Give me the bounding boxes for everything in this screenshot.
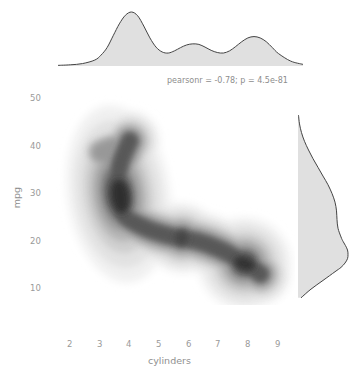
x-tick-label-3: 3 (97, 339, 102, 349)
x-tick-label-7: 7 (215, 339, 220, 349)
joint-kde-panel (40, 90, 295, 305)
marginal-x-kde-plot (55, 8, 303, 68)
pearson-annotation: pearsonr = -0.78; p = 4.5e-81 (167, 76, 288, 85)
y-tick-label-10: 10 (30, 283, 41, 293)
marginal-x-kde-panel (55, 8, 303, 68)
x-tick-label-8: 8 (245, 339, 250, 349)
x-tick-label-2: 2 (67, 339, 72, 349)
x-axis-title: cylinders (148, 355, 191, 366)
marginal-y-kde-panel (296, 100, 354, 300)
joint-kde-plot (40, 90, 295, 305)
x-tick-label-6: 6 (186, 339, 191, 349)
x-tick-label-9: 9 (275, 339, 280, 349)
y-tick-label-50: 50 (30, 93, 41, 103)
y-tick-label-30: 30 (30, 188, 41, 198)
x-tick-label-5: 5 (156, 339, 161, 349)
joint-density-contours (56, 99, 295, 305)
marginal-x-fill-area (58, 12, 303, 66)
y-axis-title: mpg (11, 184, 22, 212)
jointplot-figure: pearsonr = -0.78; p = 4.5e-81 50 40 30 2… (0, 0, 363, 386)
y-tick-label-20: 20 (30, 236, 41, 246)
x-tick-label-4: 4 (126, 339, 131, 349)
y-tick-label-40: 40 (30, 141, 41, 151)
marginal-y-kde-plot (296, 100, 354, 300)
